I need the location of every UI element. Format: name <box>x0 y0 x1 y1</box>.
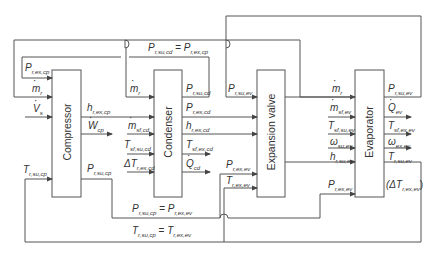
label-q-ev: Qev <box>388 103 402 117</box>
label-p-r-su-cd: Pr,su,cd <box>186 84 210 98</box>
equation-bottom-t: Tr,su,cp = Tr,ex,ev <box>132 226 191 240</box>
label-t-sf-ex-ev: Tsf,ex,ev <box>388 121 415 135</box>
label-p-r-su-ev-exp: Pr,su,ev <box>228 84 252 98</box>
equation-bottom-p: Pr,su,cp = Pr,ex,ev <box>132 204 192 218</box>
evaporator-label: Evaporator <box>363 87 375 177</box>
compressor-label: Compressor <box>61 87 73 177</box>
condenser-label: Condenser <box>162 87 174 177</box>
label-dt-r-ex-cd: ΔTr,ex,cd <box>124 159 155 173</box>
label-v-s: Vs <box>33 104 43 118</box>
label-w-cp: Wcp <box>88 121 104 135</box>
label-p-r-ex-ev-exp: Pr,ex,ev <box>226 160 250 174</box>
label-dt-r-ex-ev: (ΔTr,ex,ev) <box>386 180 423 194</box>
label-w-su-ev: ωsu,ev <box>330 137 352 151</box>
label-p-r-ex-cp-in: Pr,ex,cp <box>25 63 49 77</box>
label-m-r-cd: mr <box>130 84 140 98</box>
label-t-sf-su-ev: Tsf,su,ev <box>328 121 355 135</box>
diagram-canvas: Compressor Condenser Expansion valve Eva… <box>0 0 442 256</box>
label-p-r-ex-cd: Pr,ex,cd <box>186 103 210 117</box>
label-t-r-ex-ev-exp: Tr,ex,ev <box>226 176 250 190</box>
label-h-r-ex-cd: hr,ex,cd <box>186 121 209 135</box>
label-t-sf-su-cd: Tsf,su,cd <box>124 140 151 154</box>
label-w-ex-ev: ωex,ev <box>388 137 410 151</box>
label-h-r-su-ev: hr,su,ev <box>330 152 353 166</box>
label-t-r-su-ev: Tr,su,ev <box>388 152 412 166</box>
label-p-r-su-cp: Pr,su,cp <box>87 164 111 178</box>
equation-top: Pr,su,cd = Pr,ex,cp <box>148 43 208 57</box>
label-m-sf-ev: msf,ev <box>330 103 351 117</box>
label-m-sf-cd: msf,cd <box>128 121 149 135</box>
expansion-valve-label: Expansion valve <box>265 77 277 187</box>
label-q-cd: Qcd <box>186 159 200 173</box>
label-p-r-ex-ev: Pr,ex,ev <box>328 180 352 194</box>
label-t-r-su-cp: Tr,su,cp <box>23 165 47 179</box>
